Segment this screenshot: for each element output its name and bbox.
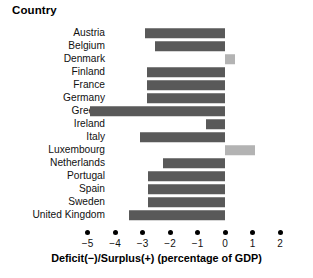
bar-united-kingdom — [129, 210, 225, 220]
bar-portugal — [148, 171, 225, 181]
chart-row: Italy — [0, 131, 313, 144]
bar-ireland — [206, 119, 225, 129]
x-tick-dot — [223, 230, 228, 235]
category-label-france: France — [73, 80, 105, 90]
category-label-belgium: Belgium — [68, 41, 105, 51]
chart-row: Spain — [0, 183, 313, 196]
x-tick-dot — [140, 230, 145, 235]
category-label-sweden: Sweden — [68, 197, 105, 207]
deficit-surplus-bar-chart: Country AustriaBelgiumDenmarkFinlandFran… — [0, 0, 313, 278]
bar-denmark — [225, 54, 235, 64]
chart-row: Netherlands — [0, 157, 313, 170]
bar-greece — [90, 106, 225, 116]
chart-row: Denmark — [0, 53, 313, 66]
category-label-denmark: Denmark — [64, 54, 105, 64]
chart-row: Austria — [0, 27, 313, 40]
bar-spain — [148, 184, 225, 194]
category-label-germany: Germany — [63, 93, 105, 103]
bar-belgium — [155, 41, 225, 51]
chart-row: Luxembourg — [0, 144, 313, 157]
category-label-spain: Spain — [79, 184, 105, 194]
x-tick-dot — [278, 230, 283, 235]
category-label-italy: Italy — [86, 132, 105, 142]
chart-row: Sweden — [0, 196, 313, 209]
chart-row: Finland — [0, 66, 313, 79]
bar-italy — [140, 132, 225, 142]
chart-row: France — [0, 79, 313, 92]
x-tick-label: 0 — [222, 238, 228, 249]
bar-finland — [147, 67, 225, 77]
x-tick-label: −5 — [82, 238, 93, 249]
x-tick-label: −2 — [164, 238, 175, 249]
x-tick-label: 1 — [250, 238, 256, 249]
x-tick-dot — [250, 230, 255, 235]
category-label-united-kingdom: United Kingdom — [33, 210, 106, 220]
plot-area: AustriaBelgiumDenmarkFinlandFranceGerman… — [0, 26, 313, 222]
chart-title: Country — [12, 4, 57, 16]
bar-austria — [145, 28, 225, 38]
x-tick-dot — [195, 230, 200, 235]
x-tick-label: −3 — [137, 238, 148, 249]
x-tick-dot — [85, 230, 90, 235]
bar-sweden — [148, 197, 225, 207]
x-tick-label: −4 — [109, 238, 120, 249]
bar-germany — [147, 93, 225, 103]
chart-row: United Kingdom — [0, 209, 313, 222]
category-label-finland: Finland — [72, 67, 105, 77]
bar-france — [147, 80, 225, 90]
bar-netherlands — [163, 158, 225, 168]
category-label-portugal: Portugal — [67, 171, 105, 181]
x-tick-label: 2 — [277, 238, 283, 249]
x-axis-label: Deficit(−)/Surplus(+) (percentage of GDP… — [0, 252, 313, 264]
x-tick-dot — [113, 230, 118, 235]
x-tick-label: −1 — [192, 238, 203, 249]
category-label-ireland: Ireland — [74, 119, 105, 129]
category-label-luxembourg: Luxembourg — [48, 145, 105, 155]
bar-luxembourg — [225, 145, 255, 155]
x-tick-dot — [168, 230, 173, 235]
category-label-austria: Austria — [73, 28, 105, 38]
chart-row: Belgium — [0, 40, 313, 53]
category-label-netherlands: Netherlands — [50, 158, 105, 168]
chart-row: Greece — [0, 105, 313, 118]
chart-row: Portugal — [0, 170, 313, 183]
chart-row: Germany — [0, 92, 313, 105]
x-axis: Deficit(−)/Surplus(+) (percentage of GDP… — [0, 222, 313, 278]
chart-row: Ireland — [0, 118, 313, 131]
